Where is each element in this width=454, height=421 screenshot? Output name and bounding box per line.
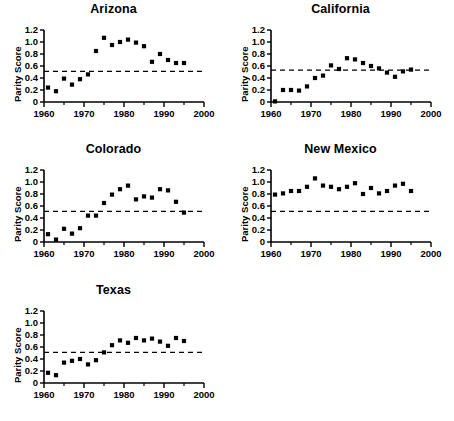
data-point-marker	[134, 197, 138, 201]
y-axis-tick-label: 1.0	[25, 36, 38, 47]
data-point-marker	[62, 77, 66, 81]
x-axis-tick-label: 1990	[153, 389, 174, 400]
data-point-marker	[86, 362, 90, 366]
data-point-marker	[385, 71, 389, 75]
data-point-marker	[377, 191, 381, 195]
x-axis-tick-label: 1980	[113, 389, 134, 400]
data-point-marker	[46, 232, 50, 236]
data-point-marker	[353, 181, 357, 185]
y-axis-tick-label: 0.6	[252, 60, 265, 71]
y-axis-tick-label: 0	[260, 96, 265, 107]
data-point-marker	[289, 88, 293, 92]
data-point-marker	[345, 185, 349, 189]
y-axis-tick-label: 0.4	[252, 212, 266, 223]
data-point-marker	[150, 60, 154, 64]
data-point-marker	[174, 336, 178, 340]
x-axis-tick-label: 1960	[260, 108, 281, 119]
data-point-marker	[86, 72, 90, 76]
y-axis-tick-label: 0.6	[252, 200, 265, 211]
x-axis-tick-label: 1970	[73, 248, 94, 259]
data-point-marker	[118, 40, 122, 44]
y-axis-tick-label: 0.8	[25, 329, 38, 340]
data-point-marker	[321, 184, 325, 188]
data-point-marker	[401, 182, 405, 186]
data-point-marker	[409, 68, 413, 72]
data-point-marker	[393, 75, 397, 79]
y-axis-tick-label: 0.4	[25, 72, 39, 83]
data-point-marker	[369, 64, 373, 68]
data-point-marker	[102, 36, 106, 40]
data-point-marker	[174, 200, 178, 204]
data-point-marker	[54, 373, 58, 377]
y-axis-tick-label: 1.0	[25, 176, 38, 187]
y-axis-tick-label: 0.4	[25, 353, 39, 364]
data-point-marker	[46, 86, 50, 90]
data-point-marker	[409, 189, 413, 193]
plot-area: 00.20.40.60.81.01.219601970198019902000	[227, 0, 454, 140]
data-point-marker	[297, 89, 301, 93]
data-point-marker	[102, 201, 106, 205]
y-axis-tick-label: 0.2	[252, 224, 265, 235]
y-axis-tick-label: 0.4	[25, 212, 39, 223]
x-axis-tick-label: 2000	[420, 108, 441, 119]
data-point-marker	[126, 341, 130, 345]
y-axis-tick-label: 0.2	[25, 365, 38, 376]
data-point-marker	[353, 57, 357, 61]
data-point-marker	[110, 343, 114, 347]
y-axis-tick-label: 1.2	[252, 164, 265, 175]
x-axis-tick-label: 1960	[33, 389, 54, 400]
data-point-marker	[150, 337, 154, 341]
y-axis-tick-label: 0.2	[252, 84, 265, 95]
chart-panel: TexasParity Score00.20.40.60.81.01.21960…	[0, 281, 227, 421]
data-point-marker	[126, 184, 130, 188]
data-point-marker	[393, 184, 397, 188]
data-point-marker	[401, 69, 405, 73]
data-point-marker	[313, 176, 317, 180]
data-point-marker	[94, 214, 98, 218]
data-point-marker	[46, 371, 50, 375]
y-axis-tick-label: 1.2	[25, 24, 38, 35]
y-axis-tick-label: 0	[260, 236, 265, 247]
y-axis-tick-label: 0	[33, 377, 38, 388]
chart-panel: ColoradoParity Score00.20.40.60.81.01.21…	[0, 140, 227, 280]
data-point-marker	[142, 44, 146, 48]
x-axis-tick-label: 2000	[420, 248, 441, 259]
x-axis-tick-label: 1980	[340, 108, 361, 119]
x-axis-tick-label: 1960	[260, 248, 281, 259]
x-axis-tick-label: 1970	[300, 248, 321, 259]
y-axis-tick-label: 0.6	[25, 200, 38, 211]
y-axis-tick-label: 1.2	[25, 164, 38, 175]
data-point-marker	[62, 361, 66, 365]
y-axis-tick-label: 0.8	[25, 48, 38, 59]
data-point-marker	[166, 188, 170, 192]
data-point-marker	[361, 192, 365, 196]
data-point-marker	[78, 357, 82, 361]
data-point-marker	[369, 186, 373, 190]
data-point-marker	[102, 350, 106, 354]
data-point-marker	[166, 58, 170, 62]
x-axis-tick-label: 1970	[73, 108, 94, 119]
data-point-marker	[134, 41, 138, 45]
y-axis-tick-label: 0.8	[25, 188, 38, 199]
data-point-marker	[110, 43, 114, 47]
data-point-marker	[174, 61, 178, 65]
y-axis-tick-label: 0.2	[25, 84, 38, 95]
data-point-marker	[70, 232, 74, 236]
data-point-marker	[305, 185, 309, 189]
y-axis-tick-label: 0.4	[252, 72, 266, 83]
y-axis-tick-label: 0	[33, 96, 38, 107]
data-point-marker	[142, 338, 146, 342]
data-point-marker	[118, 338, 122, 342]
y-axis-tick-label: 1.0	[252, 176, 265, 187]
x-axis-tick-label: 1990	[380, 108, 401, 119]
data-point-marker	[337, 67, 341, 71]
data-point-marker	[289, 189, 293, 193]
data-point-marker	[297, 189, 301, 193]
data-point-marker	[62, 227, 66, 231]
data-point-marker	[337, 187, 341, 191]
data-point-marker	[281, 191, 285, 195]
data-point-marker	[158, 52, 162, 56]
data-point-marker	[86, 214, 90, 218]
data-point-marker	[78, 77, 82, 81]
data-point-marker	[305, 84, 309, 88]
